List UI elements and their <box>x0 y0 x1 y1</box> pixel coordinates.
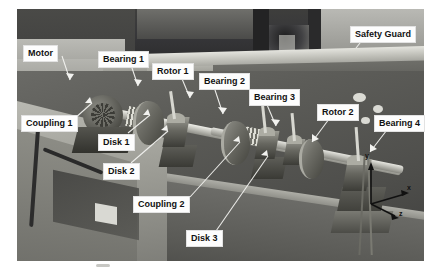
annotation-label-safety-guard: Safety Guard <box>350 26 416 43</box>
annotation-label-rotor-2: Rotor 2 <box>317 104 359 121</box>
annotation-label-motor: Motor <box>23 45 58 62</box>
wall-post-right <box>308 9 321 53</box>
background-equipment-highlight <box>279 35 295 51</box>
floor-highlight-2 <box>373 105 383 113</box>
floor-highlight-4 <box>361 117 370 124</box>
motor-fan <box>91 103 115 127</box>
coordinate-axes: y x z <box>357 152 419 220</box>
annotation-label-bearing-4: Bearing 4 <box>374 115 425 132</box>
disk-3-body <box>299 139 324 179</box>
axis-label-z: z <box>399 210 403 217</box>
annotation-label-bearing-1: Bearing 1 <box>98 51 149 68</box>
disk-2-body <box>221 121 250 165</box>
annotation-label-disk-1: Disk 1 <box>98 134 135 151</box>
test-rig-photograph <box>17 9 424 261</box>
annotation-label-disk-2: Disk 2 <box>103 163 140 180</box>
floor-highlight-1 <box>353 93 366 102</box>
annotation-label-bearing-2: Bearing 2 <box>199 73 250 90</box>
annotation-label-bearing-3: Bearing 3 <box>249 89 300 106</box>
bearing-1-pedestal <box>159 145 198 167</box>
axis-label-y: y <box>365 152 369 159</box>
disk-1-body <box>133 101 164 145</box>
annotation-label-coupling-1: Coupling 1 <box>21 115 78 132</box>
axis-label-x: x <box>407 184 411 191</box>
annotation-label-coupling-2: Coupling 2 <box>133 196 190 213</box>
figure-canvas: y x z Motor Bearing 1 Rotor 1 Bearing 2 … <box>0 0 433 275</box>
page-artifact-mark <box>96 264 110 267</box>
bearing-2-pedestal <box>251 157 288 179</box>
annotation-label-disk-3: Disk 3 <box>186 230 223 247</box>
wall-panel-mid <box>137 9 267 39</box>
bearing-2-cap <box>259 127 275 136</box>
annotation-label-rotor-1: Rotor 1 <box>152 63 194 80</box>
